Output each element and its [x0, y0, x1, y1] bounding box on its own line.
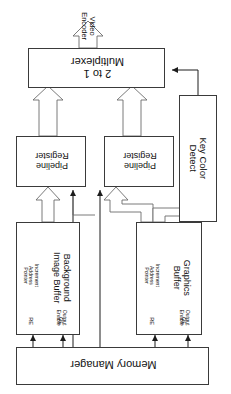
- block-graphics-buffer[interactable]: Graphics Buffer Increment Address Pointe…: [136, 222, 202, 335]
- label-bgbuffer-re-pin: RE: [28, 309, 34, 333]
- block-diagram: Video Encoder 2 to 1 Multiplexer Key Col…: [0, 0, 231, 394]
- block-background-image-buffer[interactable]: Background Image Buffer Increment Addres…: [16, 222, 80, 335]
- label-graphics-oe-pin: OE: [181, 309, 187, 333]
- label-bgbuffer-re-description: Increment Address Pointer: [23, 245, 40, 305]
- label-graphics-re-description: Increment Address Pointer: [144, 245, 161, 305]
- arrow-pipeline-left-to-mux: [33, 86, 63, 136]
- arrow-bgbuffer-to-pipeline-left: [36, 187, 60, 222]
- label-graphics-re-pin: RE: [149, 309, 155, 333]
- label-key-color-detect: Key Color Detect: [188, 108, 209, 208]
- block-key-color-detect[interactable]: Key Color Detect: [179, 95, 217, 222]
- block-pipeline-register-left[interactable]: Pipeline Register: [16, 136, 86, 187]
- line-pipeline-left-jog: [73, 196, 95, 215]
- label-video-encoder: Video Encoder: [80, 1, 96, 51]
- block-memory-manager[interactable]: Memory Manager: [16, 347, 209, 385]
- label-pipeline-register-left: Pipeline Register: [17, 151, 87, 170]
- label-bgbuffer-oe-pin: OE: [58, 309, 64, 333]
- arrow-graphics-to-pipeline-right: [104, 187, 153, 222]
- block-pipeline-register-right[interactable]: Pipeline Register: [104, 136, 174, 187]
- line-key-color-to-mux: [172, 70, 198, 95]
- label-pipeline-register-right: Pipeline Register: [105, 151, 175, 170]
- label-memory-manager: Memory Manager: [17, 358, 210, 370]
- block-multiplexer[interactable]: 2 to 1 Multiplexer: [28, 48, 165, 88]
- label-multiplexer: 2 to 1 Multiplexer: [29, 55, 166, 79]
- arrow-pipeline-right-to-mux: [117, 86, 147, 136]
